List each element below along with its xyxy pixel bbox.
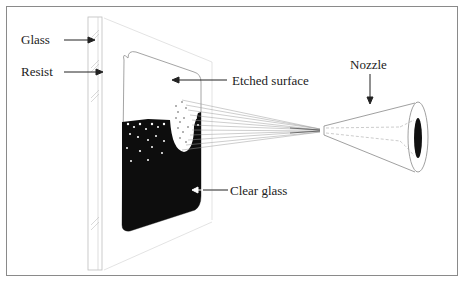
resist-arrow <box>64 69 103 75</box>
abrasive-stream <box>182 100 320 150</box>
label-clear-glass: Clear glass <box>230 184 287 197</box>
label-nozzle: Nozzle <box>350 58 387 71</box>
nozzle-arrow <box>367 74 373 104</box>
glass-arrow <box>64 37 95 43</box>
glass-pane <box>88 17 102 270</box>
label-etched-surface: Etched surface <box>232 74 309 87</box>
label-resist: Resist <box>21 65 53 78</box>
nozzle <box>324 102 428 172</box>
diagram-canvas <box>0 0 463 284</box>
label-glass: Glass <box>21 33 50 46</box>
